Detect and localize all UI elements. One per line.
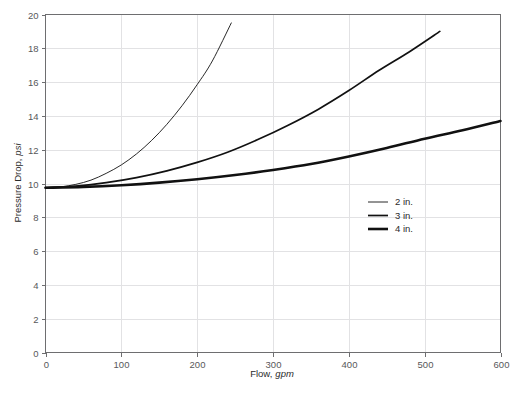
- chart-canvas: 02468101214161820 0100200300400500600 Fl…: [0, 0, 523, 394]
- y-tick-label: 8: [33, 212, 38, 223]
- x-tick-label: 400: [342, 359, 358, 370]
- y-tick-label: 0: [33, 348, 38, 359]
- y-tick-label: 10: [28, 179, 39, 190]
- y-tick-label: 2: [33, 314, 38, 325]
- legend: 2 in.3 in.4 in.: [368, 196, 413, 234]
- series-line-2-in: [46, 23, 232, 188]
- legend-label: 2 in.: [395, 196, 413, 207]
- y-axis-tick-labels: 02468101214161820: [28, 10, 39, 359]
- legend-label: 3 in.: [395, 210, 413, 221]
- x-tick-label: 600: [494, 359, 510, 370]
- y-tick-label: 6: [33, 246, 38, 257]
- x-tick-label: 200: [190, 359, 206, 370]
- series-line-3-in: [46, 31, 440, 187]
- y-tick-label: 20: [28, 10, 39, 21]
- y-tick-label: 14: [28, 111, 39, 122]
- y-tick-label: 18: [28, 43, 39, 54]
- y-tick-label: 12: [28, 145, 39, 156]
- legend-label: 4 in.: [395, 223, 413, 234]
- y-tick-label: 16: [28, 77, 39, 88]
- y-axis-title: Pressure Drop,psi: [12, 143, 23, 223]
- pressure-drop-chart: 02468101214161820 0100200300400500600 Fl…: [0, 0, 523, 394]
- x-tick-label: 500: [418, 359, 434, 370]
- gridlines-vertical: [122, 15, 426, 353]
- x-tick-label: 0: [44, 359, 49, 370]
- x-tick-label: 100: [114, 359, 130, 370]
- x-axis-title: Flow,gpm: [250, 368, 294, 379]
- y-tick-label: 4: [33, 280, 38, 291]
